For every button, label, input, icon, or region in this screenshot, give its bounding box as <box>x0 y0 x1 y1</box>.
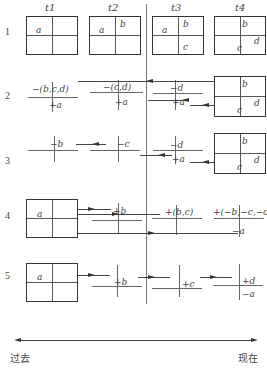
cell-a: a <box>162 26 167 35</box>
arrow-right-icon <box>251 338 258 342</box>
state-box-t4: b c d <box>214 16 266 55</box>
row-number-2: 2 <box>5 90 10 101</box>
timeline-label-present: 现在 <box>238 350 258 365</box>
node-label-bottom: −a <box>242 290 255 299</box>
node-label-top: −c <box>117 140 130 149</box>
arrow-left-icon <box>92 142 99 146</box>
node-label-top: +d <box>242 277 255 286</box>
present-divider-line <box>146 4 147 304</box>
arrow-right-icon <box>148 275 155 279</box>
node-line <box>239 264 240 300</box>
arrow-left-icon <box>158 153 165 157</box>
node-line <box>90 150 140 151</box>
arrow-right-icon <box>112 212 119 216</box>
cell-a: a <box>37 273 42 282</box>
cell-b: b <box>183 20 189 29</box>
node-label-top: −d <box>170 84 183 93</box>
cell-c: c <box>237 106 242 115</box>
cell-d: d <box>254 37 260 46</box>
arrow-left-icon <box>202 160 209 164</box>
node-line <box>179 265 180 297</box>
node-label-top: −(b,c,d) <box>32 85 69 94</box>
node-line <box>92 220 142 221</box>
node-line <box>152 218 202 219</box>
cell-b: b <box>120 20 126 29</box>
node-label-top: −d <box>170 141 183 150</box>
cell-b: b <box>242 20 248 29</box>
row-number-5: 5 <box>5 270 10 281</box>
arrow-left-icon <box>146 79 153 83</box>
state-box-row4: a <box>26 199 78 238</box>
node-label-bottom: +a <box>115 98 128 107</box>
node-label-bottom: +a <box>49 101 62 110</box>
state-box-row5: a <box>26 263 78 302</box>
arrow-left-icon <box>14 338 21 342</box>
node-line <box>28 97 78 98</box>
cell-a: a <box>36 26 41 35</box>
column-label-t1: t1 <box>45 2 55 13</box>
node-label-top: +(−b,−c,−d) <box>213 208 267 217</box>
state-box-row2: b d c <box>214 76 266 117</box>
node-label-bottom: +a <box>172 155 185 164</box>
node-label-top: −(c,d) <box>103 83 131 92</box>
column-label-t4: t4 <box>235 2 245 13</box>
cell-a: a <box>37 210 42 219</box>
column-label-t2: t2 <box>108 2 118 13</box>
arrow-left-icon <box>182 98 189 102</box>
state-box-t2: a b <box>89 16 141 55</box>
state-box-row3: b d c <box>214 133 266 174</box>
cell-a: a <box>99 26 104 35</box>
timeline-label-past: 过去 <box>10 350 30 365</box>
node-label-top: −b <box>50 140 63 149</box>
state-box-t3: a b c <box>152 16 204 55</box>
node-label-top: +c <box>182 280 195 289</box>
row-number-3: 3 <box>5 155 10 166</box>
cell-d: d <box>254 156 260 165</box>
cell-d: d <box>254 99 260 108</box>
arrow-line <box>78 233 238 234</box>
arrow-line <box>140 155 172 156</box>
row-number-4: 4 <box>5 210 10 221</box>
timeline-axis <box>18 340 254 341</box>
arrow-line <box>78 214 160 215</box>
node-label-bottom: −a <box>232 227 245 236</box>
arrow-right-icon <box>210 275 217 279</box>
column-label-t3: t3 <box>171 2 181 13</box>
cell-c: c <box>183 43 188 52</box>
node-label-top: +b <box>114 278 127 287</box>
cell-c: c <box>237 44 242 53</box>
node-line <box>153 93 203 94</box>
arrow-right-icon <box>148 231 155 235</box>
node-line <box>90 92 143 93</box>
arrow-left-icon <box>202 103 209 107</box>
row-number-1: 1 <box>5 26 10 37</box>
node-line <box>213 285 263 286</box>
arrow-right-icon <box>88 207 95 211</box>
cell-c: c <box>237 163 242 172</box>
state-box-t1: a <box>26 16 78 55</box>
arrow-right-icon <box>88 273 95 277</box>
arrow-line <box>76 144 106 145</box>
node-label-top: +(b,c) <box>165 208 193 217</box>
cell-b: b <box>242 137 248 146</box>
node-line <box>28 150 78 151</box>
node-line <box>153 150 203 151</box>
cell-b: b <box>242 80 248 89</box>
